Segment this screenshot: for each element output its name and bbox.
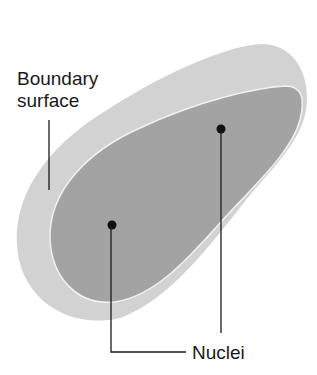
boundary-label-line2: surface — [17, 90, 79, 111]
boundary-label-line1: Boundary — [17, 68, 99, 89]
orbital-boundary-diagram: Boundary surface Nuclei — [0, 0, 317, 375]
nuclei-label: Nuclei — [192, 342, 245, 363]
nucleus-left-dot — [108, 221, 117, 230]
